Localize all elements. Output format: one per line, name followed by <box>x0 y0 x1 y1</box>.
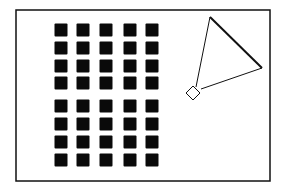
black-square <box>55 24 68 37</box>
black-square <box>124 77 137 90</box>
black-square <box>77 136 90 149</box>
black-square <box>55 100 68 113</box>
black-square <box>146 136 159 149</box>
diagram-canvas <box>0 0 283 193</box>
black-square <box>124 24 137 37</box>
black-square <box>124 100 137 113</box>
black-square <box>100 77 113 90</box>
black-square <box>77 118 90 131</box>
triangle-thick-edge <box>210 17 262 68</box>
diamond-shape <box>186 86 200 100</box>
black-square <box>146 77 159 90</box>
black-square <box>77 24 90 37</box>
square-grid <box>55 24 159 167</box>
black-square <box>100 100 113 113</box>
black-square <box>100 154 113 167</box>
black-square <box>100 24 113 37</box>
black-square <box>55 118 68 131</box>
black-square <box>100 136 113 149</box>
black-square <box>146 42 159 55</box>
black-square <box>146 154 159 167</box>
frame-border <box>16 10 270 181</box>
black-square <box>124 42 137 55</box>
black-square <box>124 60 137 73</box>
black-square <box>100 60 113 73</box>
black-square <box>146 100 159 113</box>
black-square <box>55 60 68 73</box>
black-square <box>55 42 68 55</box>
black-square <box>77 77 90 90</box>
black-square <box>77 154 90 167</box>
black-square <box>55 77 68 90</box>
black-square <box>77 42 90 55</box>
black-square <box>124 136 137 149</box>
black-square <box>124 154 137 167</box>
triangle-shape <box>196 17 262 89</box>
black-square <box>124 118 137 131</box>
black-square <box>100 42 113 55</box>
black-square <box>55 154 68 167</box>
black-square <box>146 60 159 73</box>
black-square <box>146 24 159 37</box>
black-square <box>77 60 90 73</box>
black-square <box>77 100 90 113</box>
black-square <box>55 136 68 149</box>
black-square <box>100 118 113 131</box>
black-square <box>146 118 159 131</box>
